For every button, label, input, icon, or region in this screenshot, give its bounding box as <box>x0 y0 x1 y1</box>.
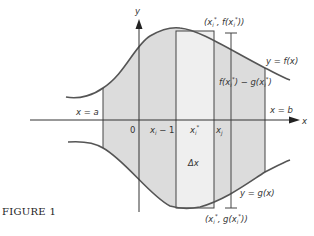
x-equals-a-label: x = a <box>75 107 99 117</box>
area-between-curves-diagram: y x 0 x = a x = b xi − 1 xi* xj Δx y = f… <box>0 0 314 236</box>
point-bottom-label: (xi*, g(xi*)) <box>205 213 248 225</box>
y-axis-label: y <box>134 6 141 16</box>
x-axis-label: x <box>301 116 308 126</box>
delta-x-label: Δx <box>187 158 200 168</box>
figure-caption: FIGURE 1 <box>2 206 56 217</box>
x-equals-b-label: x = b <box>269 105 293 115</box>
origin-label: 0 <box>130 125 135 135</box>
height-label: f(xi*) − g(xi*) <box>219 76 272 88</box>
tick-x-i-minus-1: xi − 1 <box>149 125 175 136</box>
curve-f-label: y = f(x) <box>265 56 298 66</box>
curve-g-label: y = g(x) <box>239 188 275 198</box>
x-axis-arrow-icon <box>289 117 300 124</box>
y-axis-arrow-icon <box>136 19 143 29</box>
point-top-label: (xi*, f(xi*)) <box>204 16 244 28</box>
